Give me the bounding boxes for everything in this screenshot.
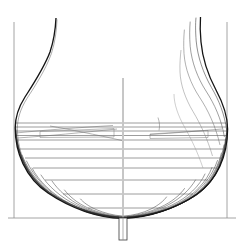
body-plan-canvas xyxy=(0,0,244,250)
drawing-background xyxy=(0,0,244,250)
body-plan-svg xyxy=(0,0,244,250)
